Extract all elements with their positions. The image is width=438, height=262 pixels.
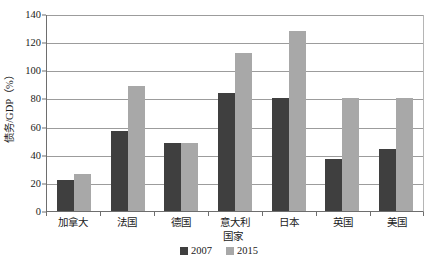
- bars-layer: [47, 15, 423, 211]
- bar: [272, 98, 289, 211]
- legend-swatch: [180, 247, 188, 255]
- y-axis-tick-labels: 020406080100120140: [16, 15, 46, 212]
- bar: [235, 53, 252, 211]
- bar: [289, 31, 306, 211]
- y-axis-tick-label: 100: [25, 66, 41, 77]
- bar-group: [154, 15, 208, 211]
- y-axis-tick-label: 0: [36, 207, 41, 218]
- y-axis-title: 债务/GDP（%）: [0, 0, 16, 212]
- bar: [181, 143, 198, 211]
- bar-chart: 债务/GDP（%） 020406080100120140 加拿大法国德国意大利日…: [0, 0, 438, 262]
- bar: [74, 174, 91, 211]
- legend-swatch: [226, 247, 234, 255]
- y-axis-tick-label: 120: [25, 38, 41, 49]
- bar: [342, 98, 359, 211]
- bar: [396, 98, 413, 211]
- bar-group: [208, 15, 262, 211]
- legend-label: 2007: [191, 246, 212, 257]
- bar: [164, 143, 181, 211]
- x-axis-title-text: 国家: [223, 230, 243, 243]
- chart-legend: 20072015: [0, 244, 438, 258]
- bar: [111, 131, 128, 211]
- legend-entry: 2015: [226, 246, 258, 257]
- bar: [325, 159, 342, 211]
- y-axis-tick-label: 20: [31, 179, 42, 190]
- bar-group: [101, 15, 155, 211]
- bar-group: [47, 15, 101, 211]
- plot-area: [46, 15, 424, 212]
- bar: [218, 93, 235, 211]
- bar: [379, 149, 396, 211]
- bar-group: [262, 15, 316, 211]
- y-axis-tick-label: 60: [31, 122, 42, 133]
- y-axis-tick-label: 40: [31, 150, 42, 161]
- bar-group: [316, 15, 370, 211]
- bar: [57, 180, 74, 211]
- bar: [128, 86, 145, 211]
- y-axis-tick-label: 80: [31, 94, 42, 105]
- bar-group: [369, 15, 423, 211]
- legend-entry: 2007: [180, 246, 212, 257]
- legend-label: 2015: [237, 246, 258, 257]
- y-axis-title-text: 债务/GDP（%）: [1, 70, 16, 143]
- x-axis-title: 国家: [46, 230, 424, 243]
- y-axis-tick-label: 140: [25, 10, 41, 21]
